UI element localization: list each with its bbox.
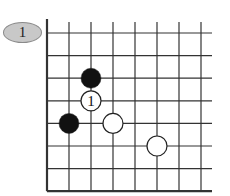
go-board: 1 [0,0,230,196]
board-grid [47,19,212,191]
white-stone [103,113,123,133]
black-stone [59,113,79,133]
white-stone [147,136,167,156]
white-stone: 1 [81,91,101,111]
move-number-label: 1 [87,93,95,109]
black-stone [81,68,101,88]
